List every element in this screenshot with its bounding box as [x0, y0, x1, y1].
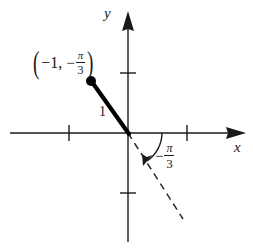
coord-theta-minus: − [66, 56, 74, 71]
coord-theta-numerator: π [76, 50, 86, 62]
coord-open-paren: ( [33, 51, 39, 76]
coord-theta-fraction: π 3 [76, 50, 86, 76]
x-axis-label: x [234, 140, 241, 155]
coord-comma: , [58, 55, 62, 71]
x-axis-arrowhead [226, 127, 246, 139]
y-axis-arrowhead [122, 11, 134, 31]
angle-minus: − [155, 149, 163, 164]
point-coordinate-label: ( −1 , − π 3 ) [31, 50, 96, 76]
angle-fraction: π 3 [164, 142, 174, 170]
y-axis-label: y [104, 6, 111, 21]
angle-measure-label: − π 3 [155, 142, 174, 170]
angle-numerator: π [164, 142, 174, 155]
coord-r-value: −1 [41, 55, 58, 71]
polar-point-figure: y x 1 ( −1 , − π 3 ) − π 3 [0, 0, 253, 249]
angle-arc-arrowhead [142, 154, 152, 166]
coord-close-paren: ) [87, 51, 93, 76]
coord-theta-denominator: 3 [78, 63, 84, 76]
figure-canvas [0, 0, 253, 249]
radius-segment [92, 82, 129, 134]
segment-length-label: 1 [99, 105, 106, 119]
angle-denominator: 3 [166, 156, 173, 170]
